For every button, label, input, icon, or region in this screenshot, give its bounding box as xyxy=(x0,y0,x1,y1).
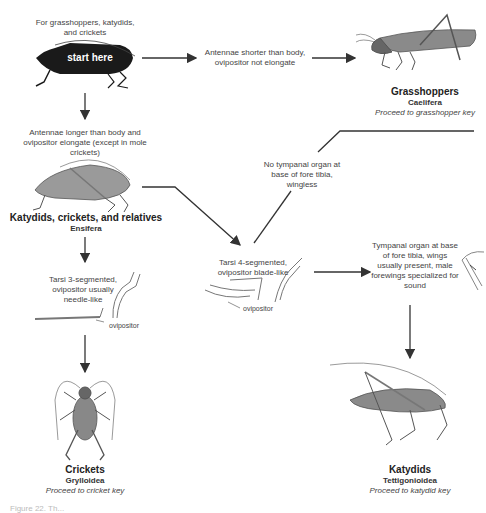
start-silhouette-icon xyxy=(36,40,135,88)
taxon-crickets[interactable]: Crickets Grylloidea Proceed to cricket k… xyxy=(30,464,140,496)
taxon-group: Grylloidea xyxy=(30,476,140,486)
taxon-next-step[interactable]: Proceed to grasshopper key xyxy=(370,108,480,118)
taxon-next-step[interactable]: Proceed to katydid key xyxy=(355,486,465,496)
start-here-label[interactable]: start here xyxy=(60,52,120,63)
branch-no-tympanal: No tympanal organ at base of fore tibia,… xyxy=(260,160,344,190)
taxon-name: Katydids xyxy=(355,464,465,476)
ensifera-illustration-icon xyxy=(33,160,130,212)
taxon-group: Ensifera xyxy=(0,224,172,234)
taxon-group: Tettigonioidea xyxy=(355,476,465,486)
ovipositor-label-2: ovipositor xyxy=(238,304,278,314)
taxon-next-step[interactable]: Proceed to cricket key xyxy=(30,486,140,496)
branch-tarsi-4: Tarsi 4-segmented, ovipositor blade-like xyxy=(208,258,298,278)
taxon-katydids[interactable]: Katydids Tettigonioidea Proceed to katyd… xyxy=(355,464,465,496)
figure-caption: Figure 22. Th... xyxy=(10,504,64,513)
tympanal-leg-icon xyxy=(462,252,484,290)
taxon-name: Grasshoppers xyxy=(370,86,480,98)
branch-long-antennae: Antennae longer than body and ovipositor… xyxy=(20,128,150,158)
branch-tarsi-3: Tarsi 3-segmented, ovipositor usually ne… xyxy=(42,275,124,305)
grasshopper-illustration-icon xyxy=(356,15,476,70)
ovipositor-label-1: ovipositor xyxy=(104,321,144,331)
taxon-ensifera[interactable]: Katydids, crickets, and relatives Ensife… xyxy=(0,212,172,234)
taxon-name: Crickets xyxy=(30,464,140,476)
branch-short-antennae: Antennae shorter than body, ovipositor n… xyxy=(200,48,310,68)
cricket-illustration-icon xyxy=(55,381,115,460)
katydid-illustration-icon xyxy=(330,363,447,445)
branch-tympanal: Tympanal organ at base of fore tibia, wi… xyxy=(370,241,460,291)
taxon-name: Katydids, crickets, and relatives xyxy=(0,212,172,224)
start-intro-text: For grasshoppers, katydids, and crickets xyxy=(30,18,140,38)
taxon-group: Caelifera xyxy=(370,98,480,108)
taxon-grasshoppers[interactable]: Grasshoppers Caelifera Proceed to grassh… xyxy=(370,86,480,118)
